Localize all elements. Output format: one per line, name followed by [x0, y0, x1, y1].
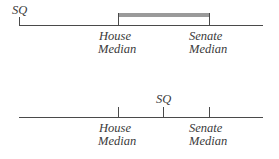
bottom-house-label-line2: Median: [98, 135, 136, 148]
top-senate-tick: [209, 13, 210, 26]
bottom-sq-tick: [163, 107, 164, 117]
top-house-label-line2: Median: [98, 43, 136, 56]
bottom-axis-line: [19, 117, 263, 118]
bottom-senate-tick: [209, 107, 210, 117]
top-axis-line: [19, 25, 263, 26]
top-senate-label-line2: Median: [189, 43, 227, 56]
bottom-senate-label-line2: Median: [189, 135, 227, 148]
bottom-house-tick: [118, 107, 119, 117]
top-house-tick: [118, 13, 119, 26]
top-sq-label: SQ: [12, 4, 27, 17]
bottom-sq-label: SQ: [156, 93, 171, 106]
top-shaded-interval: [118, 13, 210, 17]
